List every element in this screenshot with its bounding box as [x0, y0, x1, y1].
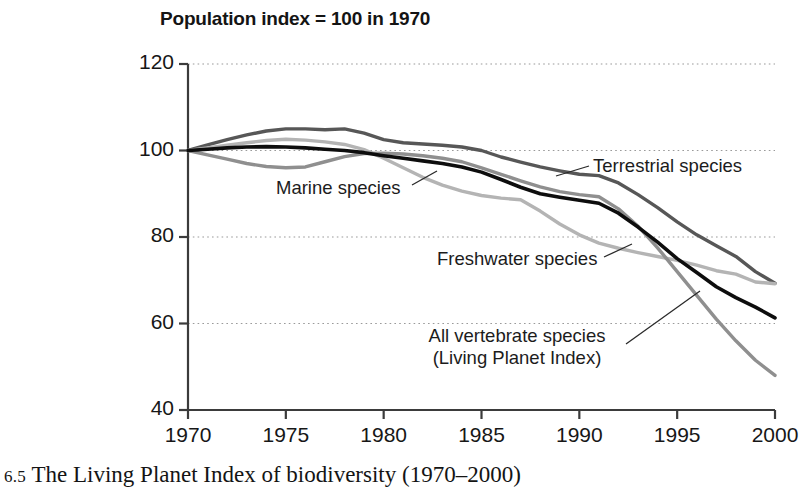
x-tick-label-1975: 1975: [241, 423, 331, 447]
y-tick-label-100: 100: [112, 137, 174, 161]
caption-number: 6.5: [4, 467, 26, 486]
x-tick-label-1995: 1995: [632, 423, 722, 447]
annotation-line: All vertebrate species: [404, 325, 630, 347]
series-label-marine: Marine species: [276, 177, 400, 199]
annotation-line: Terrestrial species: [593, 155, 742, 177]
figure-living-planet-index: Population index = 100 in 1970 406080100…: [0, 0, 809, 502]
annotation-line: (Living Planet Index): [404, 347, 630, 369]
annotation-line: Freshwater species: [437, 248, 597, 270]
y-tick-label-120: 120: [112, 50, 174, 74]
y-tick-label-40: 40: [112, 396, 174, 420]
series-label-freshwater: Freshwater species: [437, 248, 597, 270]
x-tick-label-1970: 1970: [143, 423, 233, 447]
y-tick-label-60: 60: [112, 310, 174, 334]
y-tick-label-80: 80: [112, 223, 174, 247]
x-tick-label-1990: 1990: [534, 423, 624, 447]
leader-line-all-vertebrate: [626, 291, 700, 344]
x-tick-label-2000: 2000: [730, 423, 809, 447]
x-tick-label-1985: 1985: [437, 423, 527, 447]
annotation-line: Marine species: [276, 177, 400, 199]
series-label-all-vertebrate: All vertebrate species(Living Planet Ind…: [404, 325, 630, 369]
caption-text: The Living Planet Index of biodiversity …: [32, 462, 521, 487]
figure-caption: 6.5 The Living Planet Index of biodivers…: [4, 462, 804, 488]
plot-area: 406080100120 197019751980198519901995200…: [0, 0, 809, 455]
series-label-terrestrial: Terrestrial species: [593, 155, 742, 177]
x-tick-label-1980: 1980: [339, 423, 429, 447]
